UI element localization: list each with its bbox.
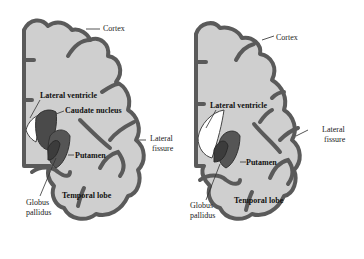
left-label-globus-pallidus-1: Globus — [26, 198, 49, 207]
right-label-lateral-fissure-1: Lateral — [322, 125, 345, 134]
left-label-globus-pallidus-2: pallidus — [26, 208, 51, 217]
right-label-globus-pallidus-1: Globus — [190, 201, 213, 210]
left-label-lateral-ventricle: Lateral ventricle — [40, 91, 98, 100]
right-label-lateral-fissure-2: fissure — [324, 135, 346, 144]
left-label-lateral-fissure-1: Lateral — [150, 134, 173, 143]
left-label-cortex: Cortex — [103, 24, 125, 33]
right-label-globus-pallidus-2: pallidus — [190, 211, 215, 220]
left-label-putamen: Putamen — [75, 151, 106, 160]
left-label-lateral-fissure-2: fissure — [152, 144, 174, 153]
right-label-temporal-lobe: Temporal lobe — [234, 196, 284, 205]
brain-coronal-sections-diagram: Cortex Lateral ventricle Caudate nucleus… — [0, 0, 364, 259]
right-label-lateral-ventricle: Lateral ventricle — [210, 101, 268, 110]
right-label-putamen: Putamen — [246, 158, 277, 167]
right-label-cortex: Cortex — [276, 33, 298, 42]
left-label-temporal-lobe: Temporal lobe — [62, 191, 112, 200]
left-label-caudate-nucleus: Caudate nucleus — [65, 106, 122, 115]
